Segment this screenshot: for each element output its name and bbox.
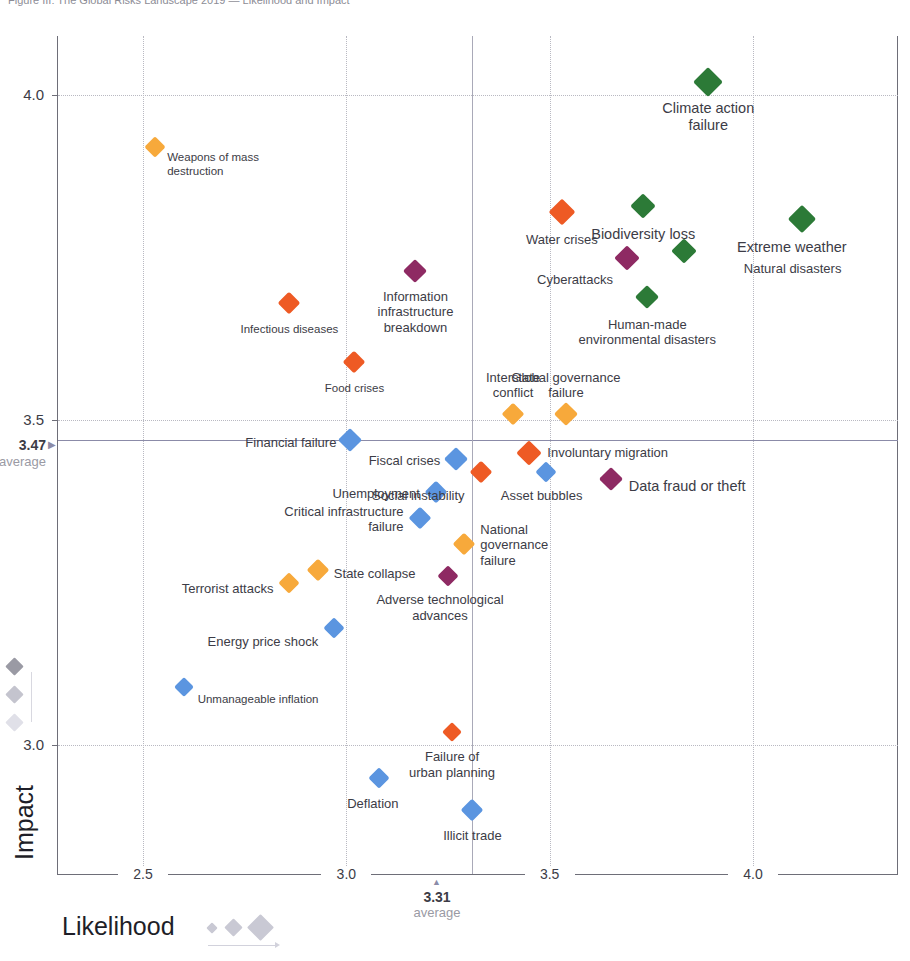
x-tick-label: 3.0 (321, 866, 371, 882)
risk-marker[interactable] (279, 572, 300, 593)
y-average-arrow-icon: ▶ (48, 439, 56, 450)
risk-label: Critical infrastructure failure (284, 504, 403, 535)
risk-label: Water crises (526, 232, 598, 248)
risk-label: Interstate conflict (486, 370, 540, 401)
risk-label: Food crises (325, 382, 384, 396)
risk-marker[interactable] (338, 427, 362, 451)
gridline-vertical (143, 36, 144, 874)
risk-label: Weapons of mass destruction (167, 151, 259, 178)
risk-label: Information infrastructure breakdown (378, 289, 454, 336)
risk-label: Financial failure (245, 435, 336, 451)
risk-label: Natural disasters (744, 261, 842, 277)
risk-label: Infectious diseases (240, 323, 338, 337)
plot-right-border (897, 36, 898, 874)
risk-label: Unmanageable inflation (198, 693, 319, 707)
risk-label: Involuntary migration (547, 445, 668, 461)
risk-marker[interactable] (278, 292, 301, 315)
risk-marker[interactable] (444, 447, 468, 471)
size-legend (208, 918, 270, 937)
risk-label: Asset bubbles (501, 488, 583, 504)
risk-label: State collapse (334, 566, 416, 582)
y-average-caption: average (0, 454, 46, 469)
figure-headline: Figure III: The Global Risks Landscape 2… (8, 0, 428, 8)
risk-marker[interactable] (554, 401, 578, 425)
risk-label: National governance failure (480, 522, 548, 569)
side-legend-diamond-icon (5, 685, 23, 703)
side-size-legend (0, 660, 40, 735)
risk-label: Fiscal crises (369, 453, 441, 469)
risk-marker[interactable] (548, 199, 575, 226)
risk-marker[interactable] (517, 440, 542, 465)
risk-label: Terrorist attacks (182, 581, 274, 597)
x-tick-label: 3.5 (525, 866, 575, 882)
risk-label: Biodiversity loss (591, 226, 695, 243)
x-axis-title: Likelihood (62, 912, 175, 941)
risk-marker[interactable] (442, 722, 462, 742)
risk-label: Failure of urban planning (409, 749, 495, 780)
risk-label: Illicit trade (443, 828, 502, 844)
risk-marker[interactable] (461, 799, 484, 822)
risk-label: Data fraud or theft (629, 478, 746, 495)
y-tick-mark (52, 745, 58, 746)
size-legend-diamond-icon (206, 922, 217, 933)
risk-label: Unemployment (332, 486, 419, 502)
risk-label: Adverse technological advances (376, 592, 503, 623)
size-legend-arrow-head-icon (275, 942, 280, 948)
x-tick-label: 2.5 (118, 866, 168, 882)
risk-marker[interactable] (693, 67, 723, 97)
gridline-vertical (753, 36, 754, 874)
side-legend-diamond-icon (5, 713, 23, 731)
size-legend-diamond-icon (247, 914, 274, 941)
y-tick-label: 4.0 (0, 86, 44, 103)
risk-label: Energy price shock (208, 634, 319, 650)
y-axis-line (57, 36, 58, 874)
risk-label: Extreme weather (737, 239, 847, 256)
risk-marker[interactable] (437, 565, 458, 586)
y-tick-mark (52, 95, 58, 96)
risk-marker[interactable] (535, 461, 556, 482)
x-tick-label: 4.0 (728, 866, 778, 882)
risk-marker[interactable] (324, 617, 345, 638)
y-average-value: 3.47 (0, 437, 46, 453)
gridline-horizontal (58, 420, 898, 421)
gridline-vertical (346, 36, 347, 874)
risk-marker[interactable] (174, 677, 194, 697)
global-risks-landscape-chart: Figure III: The Global Risks Landscape 2… (0, 0, 910, 961)
risk-marker[interactable] (502, 402, 525, 425)
y-tick-label: 3.0 (0, 736, 44, 753)
y-tick-label: 3.5 (0, 411, 44, 428)
risk-marker[interactable] (599, 466, 623, 490)
risk-marker[interactable] (788, 204, 816, 232)
risk-marker[interactable] (635, 284, 659, 308)
x-average-arrow-icon: ▲ (432, 877, 441, 887)
size-legend-arrow (208, 945, 276, 946)
risk-label: Cyberattacks (537, 272, 613, 288)
risk-marker[interactable] (614, 245, 639, 270)
gridline-horizontal (58, 95, 898, 96)
size-legend-diamond-icon (224, 918, 242, 936)
y-tick-mark (52, 420, 58, 421)
side-legend-diamond-icon (5, 657, 23, 675)
y-axis-title: Impact (10, 785, 39, 860)
risk-marker[interactable] (145, 136, 166, 157)
risk-marker[interactable] (368, 767, 389, 788)
x-average-caption: average (407, 905, 467, 920)
risk-label: Human-made environmental disasters (579, 317, 716, 348)
risk-marker[interactable] (408, 506, 431, 529)
risk-label: Deflation (347, 796, 398, 812)
risk-marker[interactable] (403, 258, 427, 282)
risk-label: Climate action failure (662, 100, 754, 134)
x-average-value: 3.31 (407, 889, 467, 905)
risk-marker[interactable] (307, 558, 330, 581)
gridline-horizontal (58, 745, 898, 746)
side-legend-arrow (31, 672, 32, 722)
average-impact-line (58, 440, 898, 441)
risk-marker[interactable] (630, 193, 655, 218)
